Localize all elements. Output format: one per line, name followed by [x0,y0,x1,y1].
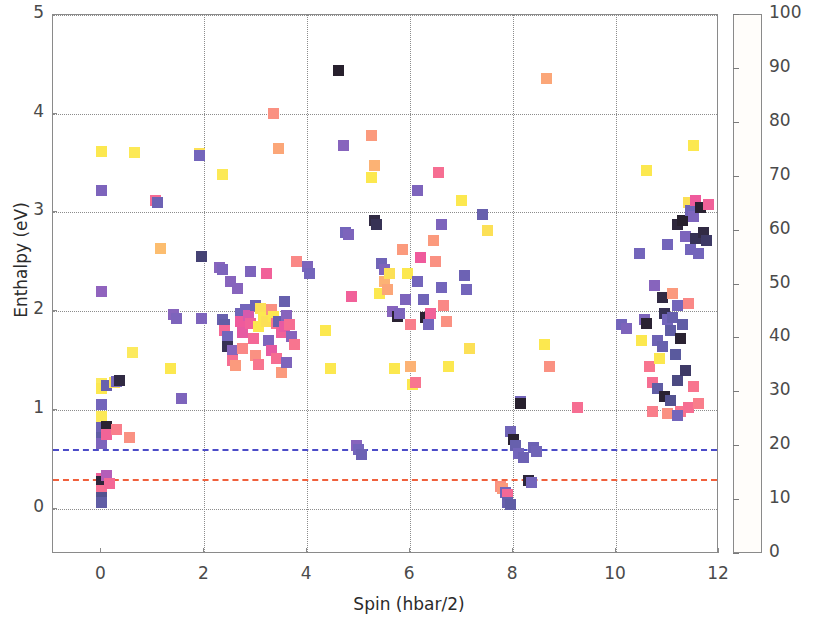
scatter-point [356,449,367,460]
scatter-point [672,410,683,421]
scatter-point [366,130,377,141]
y-axis-tick-label: 5 [4,2,44,22]
x-axis-tick-label: 10 [595,563,635,583]
scatter-point [237,343,248,354]
scatter-point [155,243,166,254]
y-axis-tick [52,409,57,410]
scatter-point [196,251,207,262]
scatter-point [482,225,493,236]
scatter-point [111,424,122,435]
scatter-point [281,357,292,368]
scatter-point [284,319,295,330]
colorbar-tick-label: 80 [769,110,791,130]
colorbar-tick-label: 30 [769,379,791,399]
x-axis-tick [203,548,204,553]
scatter-point [382,284,393,295]
scatter-point [641,165,652,176]
scatter-point [171,313,182,324]
scatter-point [366,172,377,183]
colorbar-tick [733,122,739,123]
scatter-point [703,199,714,210]
colorbar-tick [733,391,739,392]
scatter-point [304,268,315,279]
scatter-point [333,65,344,76]
y-axis-tick [52,211,57,212]
scatter-point [539,339,550,350]
scatter-point [196,313,207,324]
colorbar-tick [733,499,739,500]
scatter-point [129,147,140,158]
scatter-point [461,284,472,295]
scatter-points [53,15,717,552]
scatter-point [441,316,452,327]
scatter-point [394,308,405,319]
colorbar-tick [733,14,739,15]
scatter-point [369,160,380,171]
scatter-point [418,294,429,305]
scatter-point [464,343,475,354]
colorbar-tick-label: 90 [769,56,791,76]
scatter-point [430,256,441,267]
scatter-point [683,298,694,309]
scatter-point [636,335,647,346]
scatter-point [96,399,107,410]
scatter-point [412,276,423,287]
scatter-point [541,73,552,84]
colorbar-tick-label: 10 [769,487,791,507]
scatter-point [526,477,537,488]
x-axis-tick-label: 2 [183,563,223,583]
colorbar-tick-label: 0 [769,541,780,561]
scatter-point [96,146,107,157]
scatter-point [443,361,454,372]
scatter-point [232,283,243,294]
x-axis-tick [306,548,307,553]
scatter-point [701,235,712,246]
scatter-point [248,333,259,344]
scatter-point [389,363,400,374]
colorbar-tick [733,68,739,69]
colorbar-tick [733,230,739,231]
y-axis-tick-label: 1 [4,397,44,417]
scatter-point [436,219,447,230]
scatter-point [230,360,241,371]
scatter-point [217,169,228,180]
colorbar-tick [733,445,739,446]
scatter-point [289,339,300,350]
scatter-point [273,143,284,154]
scatter-point [114,375,125,386]
figure: 024681012012345 Spin (hbar/2) Enthalpy (… [0,0,818,620]
colorbar-tick-label: 100 [769,2,801,22]
y-axis-tick-label: 4 [4,101,44,121]
scatter-point [325,363,336,374]
colorbar-tick [733,553,739,554]
scatter-point [415,252,426,263]
x-axis-tick-label: 4 [286,563,326,583]
scatter-point [665,395,676,406]
scatter-point [531,446,542,457]
x-axis-tick [512,548,513,553]
x-axis-tick [615,548,616,553]
scatter-point [436,282,447,293]
x-axis-tick-label: 8 [492,563,532,583]
scatter-point [194,150,205,161]
scatter-point [384,268,395,279]
scatter-point [320,325,331,336]
scatter-point [124,432,135,443]
scatter-point [96,286,107,297]
scatter-point [428,235,439,246]
scatter-point [127,347,138,358]
scatter-point [693,398,704,409]
y-axis-tick [52,113,57,114]
y-axis-label: Enthalpy (eV) [11,145,31,375]
scatter-point [261,268,272,279]
scatter-point [279,296,290,307]
scatter-point [176,393,187,404]
scatter-point [688,140,699,151]
scatter-point [338,140,349,151]
scatter-point [672,375,683,386]
scatter-point [459,270,470,281]
colorbar-tick [733,176,739,177]
x-axis-tick [718,548,719,553]
scatter-point [343,229,354,240]
scatter-point [165,363,176,374]
